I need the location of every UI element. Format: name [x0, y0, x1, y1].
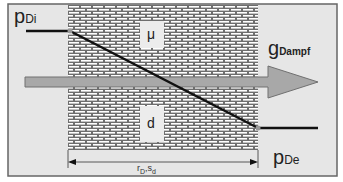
vapor-diffusion-diagram: pDi gDampf pDe μ d rD,sd [0, 0, 343, 182]
mu-label: μ [147, 27, 155, 41]
p-inner-symbol: p [14, 5, 25, 27]
p-outer-subscript: De [284, 153, 299, 167]
flux-symbol: g [268, 37, 279, 59]
dimension-label: rD,sd [137, 164, 156, 175]
pressure-node-outer [256, 126, 261, 131]
pressure-node-inner [68, 29, 73, 34]
p-inner-label: pDi [14, 6, 36, 26]
p-inner-subscript: Di [25, 12, 36, 26]
p-outer-label: pDe [273, 147, 299, 167]
p-outer-symbol: p [273, 146, 284, 168]
flux-subscript: Dampf [279, 46, 310, 57]
flux-label: gDampf [268, 38, 310, 58]
dimension-s-sub: d [152, 168, 156, 175]
thickness-label: d [147, 116, 155, 130]
